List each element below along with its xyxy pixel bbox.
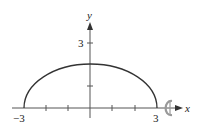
y-axis-label: y xyxy=(86,9,92,21)
x-tick-label-neg3: −3 xyxy=(13,112,25,124)
y-tick-label-3: 3 xyxy=(78,37,84,49)
x-axis-arrow-icon xyxy=(175,105,183,111)
x-tick-label-3: 3 xyxy=(153,112,159,124)
x-axis-label: x xyxy=(184,102,190,114)
y-axis-arrow-icon xyxy=(87,22,93,30)
diagram: y 3 −3 3 x xyxy=(0,0,197,137)
